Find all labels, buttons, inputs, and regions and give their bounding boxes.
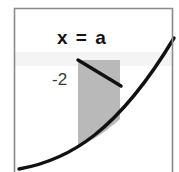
math-figure: x = a -2 [0,0,179,172]
label-x-equals-a: x = a [57,28,107,47]
label-slope-value: -2 [52,71,67,88]
figure-canvas [0,0,179,172]
